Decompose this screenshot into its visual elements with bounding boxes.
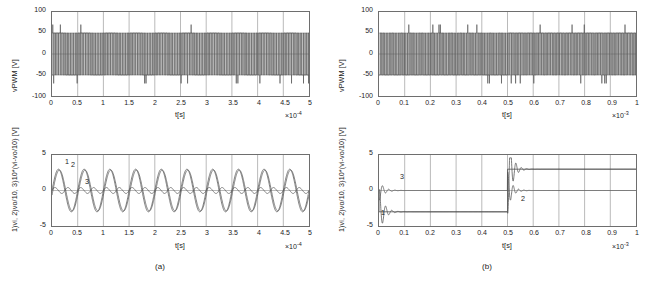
x-tick: 1 [93,99,113,106]
y-tick: 0 [22,49,46,56]
curve-label-3: 3 [85,177,89,186]
x-tick: 0.7 [550,99,570,106]
x-tick: 0.3 [446,229,466,236]
curve-label-1: 1 [381,208,385,217]
plot-area [51,11,310,97]
exponent-mantissa: ×10 [285,112,297,119]
x-tick: 0.5 [67,99,87,106]
y-tick: -50 [22,70,46,77]
curve-label-1: 1 [65,157,69,166]
x-tick: 4 [249,229,269,236]
x-tick: 0.4 [472,229,492,236]
caption-a: (a) [130,262,190,271]
y-tick: 0 [349,185,373,192]
x-tick: 4.5 [275,99,295,106]
plot-area [378,11,637,97]
y-tick: 100 [22,6,46,13]
x-tick: 0.6 [524,229,544,236]
exponent-power: -3 [624,241,629,247]
x-tick: 0 [41,229,61,236]
x-tick: 0.1 [394,99,414,106]
x-tick: 0.2 [420,99,440,106]
x-tick: 0.4 [472,99,492,106]
x-tick: 0.8 [576,229,596,236]
plot-canvas [379,12,636,96]
x-tick: 0.7 [550,229,570,236]
y-axis-label: vPWM [V] [337,59,346,92]
x-tick: 0.9 [602,229,622,236]
x-tick: 3 [197,99,217,106]
exponent-mantissa: ×10 [285,243,297,250]
plot-canvas [379,155,636,226]
y-tick: 50 [22,27,46,34]
x-tick: 0 [41,99,61,106]
x-tick: 0 [368,229,388,236]
exponent-power: -4 [297,241,302,247]
exponent-power: -3 [624,110,629,116]
x-tick: 0.5 [498,99,518,106]
x-tick: 4 [249,99,269,106]
x-tick: 3.5 [223,229,243,236]
y-axis-label: 1)vi, 2)vo/10, 3)10*(vi-vo/10) [V] [10,127,19,232]
x-tick: 0.5 [67,229,87,236]
y-tick: -50 [349,70,373,77]
plot-canvas [52,155,309,226]
x-tick: 2 [145,99,165,106]
curve-label-3: 3 [400,172,404,181]
x-axis-exponent: ×10-3 [612,241,629,250]
x-axis-exponent: ×10-4 [285,241,302,250]
exponent-power: -4 [297,110,302,116]
y-tick: -100 [22,92,46,99]
y-tick: 5 [349,149,373,156]
y-tick: 50 [349,27,373,34]
x-tick: 3.5 [223,99,243,106]
x-tick: 0.5 [498,229,518,236]
x-tick: 0.9 [602,99,622,106]
plot-area: 1 2 3 [51,154,310,227]
exponent-mantissa: ×10 [612,112,624,119]
x-tick: 1.5 [119,229,139,236]
caption-b: (b) [457,262,517,271]
y-tick: 100 [349,6,373,13]
curve-label-2: 2 [71,160,75,169]
x-axis-label: t[s] [467,241,547,250]
x-tick: 0.3 [446,99,466,106]
x-tick: 4.5 [275,229,295,236]
x-tick: 1 [627,229,647,236]
y-axis-label: 1)vi, 2)vo/10, 3)10*(vi-vo/10) [V] [337,127,346,232]
x-tick: 1 [627,99,647,106]
y-tick: -5 [22,221,46,228]
x-axis-label: t[s] [140,241,220,250]
curve-label-2: 2 [521,194,525,203]
x-axis-exponent: ×10-4 [285,110,302,119]
y-tick: -100 [349,92,373,99]
x-tick: 0.6 [524,99,544,106]
y-tick: 0 [349,49,373,56]
x-tick: 0.1 [394,229,414,236]
y-axis-label: vPWM [V] [10,59,19,92]
x-tick: 5 [300,229,320,236]
x-tick: 1.5 [119,99,139,106]
y-tick: 5 [22,149,46,156]
x-axis-label: t[s] [140,110,220,119]
x-tick: 1 [93,229,113,236]
x-tick: 3 [197,229,217,236]
x-axis-exponent: ×10-3 [612,110,629,119]
y-tick: -5 [349,221,373,228]
figure-root: vPWM [V] 100 50 0 -50 -100 0 0.5 1 [0,0,650,297]
x-axis-label: t[s] [467,110,547,119]
x-tick: 0.8 [576,99,596,106]
x-tick: 0 [368,99,388,106]
x-tick: 2.5 [171,229,191,236]
plot-canvas [52,12,309,96]
x-tick: 5 [300,99,320,106]
plot-area: 3 1 2 [378,154,637,227]
exponent-mantissa: ×10 [612,243,624,250]
x-tick: 0.2 [420,229,440,236]
x-tick: 2 [145,229,165,236]
x-tick: 2.5 [171,99,191,106]
y-tick: 0 [22,185,46,192]
